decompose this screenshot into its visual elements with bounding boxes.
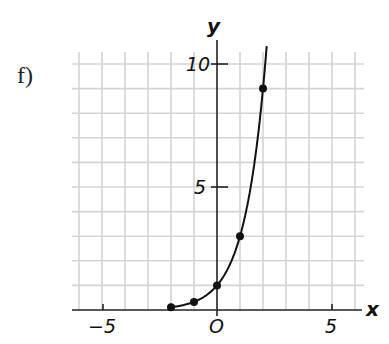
data-point — [259, 85, 267, 93]
y-tick-label-10: 10 — [186, 53, 210, 75]
x-tick-label-5: 5 — [325, 315, 337, 337]
x-axis-label: x — [365, 297, 380, 321]
data-point — [213, 281, 221, 289]
data-point — [167, 303, 175, 311]
y-axis-label: y — [207, 14, 221, 38]
origin-label: O — [209, 315, 224, 337]
graph: −5 5 O 5 10 y x — [0, 0, 389, 344]
y-tick-label-5: 5 — [194, 176, 206, 198]
data-point — [236, 232, 244, 240]
grid-lines — [72, 52, 364, 310]
data-point — [190, 298, 198, 306]
exponential-curve — [171, 46, 267, 307]
x-tick-label-neg5: −5 — [88, 315, 116, 337]
